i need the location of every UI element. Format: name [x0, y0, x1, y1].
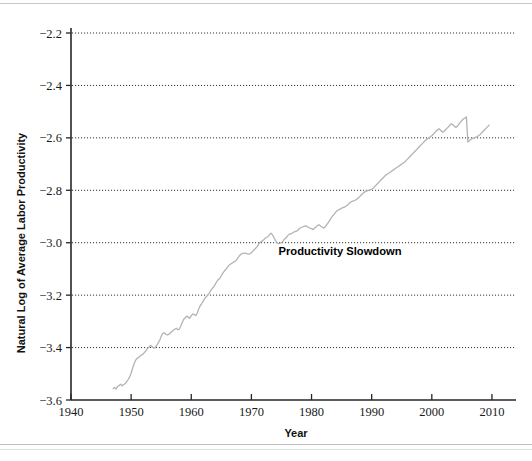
y-tick-labels-group: −3.6−3.4−3.2−3.0−2.8−2.6−2.4−2.2 — [39, 27, 62, 408]
figure-container: −3.6−3.4−3.2−3.0−2.8−2.6−2.4−2.2 1940195… — [0, 0, 532, 461]
y-tick-label: −3.0 — [39, 236, 62, 250]
productivity-slowdown-annotation: Productivity Slowdown — [279, 245, 402, 257]
x-tick-label: 1990 — [359, 405, 384, 419]
y-tick-label: −3.2 — [39, 289, 62, 303]
x-tick-label: 2010 — [479, 405, 504, 419]
x-tick-label: 1960 — [179, 405, 204, 419]
gridlines-group — [72, 33, 516, 348]
bottom-divider-rule — [0, 444, 532, 445]
x-tick-label: 1980 — [299, 405, 324, 419]
y-tick-label: −3.4 — [39, 341, 62, 355]
x-tick-label: 1970 — [239, 405, 264, 419]
bottom-divider-rule-secondary — [0, 449, 532, 450]
x-tick-label: 2000 — [419, 405, 444, 419]
x-axis-title: Year — [284, 427, 308, 439]
x-tick-labels-group: 19401950196019701980199020002010 — [59, 405, 505, 419]
y-tick-label: −2.2 — [39, 27, 62, 41]
y-tick-label: −2.4 — [39, 79, 62, 93]
y-axis-title: Natural Log of Average Labor Productivit… — [15, 132, 27, 353]
x-tick-label: 1950 — [119, 405, 144, 419]
x-tick-label: 1940 — [59, 405, 84, 419]
y-tick-label: −2.8 — [39, 184, 62, 198]
y-tick-label: −2.6 — [39, 131, 62, 145]
chart-canvas: −3.6−3.4−3.2−3.0−2.8−2.6−2.4−2.2 1940195… — [0, 0, 532, 461]
x-tick-marks-group — [71, 394, 492, 400]
